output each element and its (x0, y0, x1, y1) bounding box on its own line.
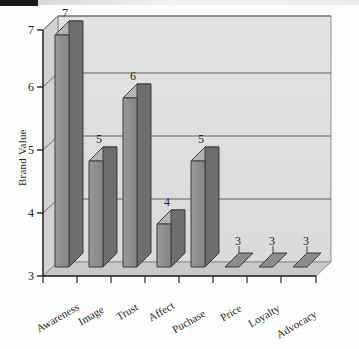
value-label-awareness: 7 (62, 6, 68, 21)
y-tick-label-3: 3 (18, 269, 34, 284)
bar-puchase[interactable] (191, 147, 219, 267)
value-label-advocacy: 3 (303, 234, 309, 249)
value-label-price: 3 (235, 234, 241, 249)
y-tick-label-5: 5 (18, 143, 34, 158)
value-label-loyalty: 3 (269, 234, 275, 249)
chart-canvas: Brand Value 3 4 5 6 7 7 5 6 4 5 3 3 3 Aw… (0, 0, 359, 349)
bar-awareness[interactable] (55, 21, 83, 267)
value-label-trust: 6 (130, 69, 136, 84)
x-axis (43, 276, 316, 283)
y-tick-label-7: 7 (18, 23, 34, 38)
value-label-image: 5 (96, 132, 102, 147)
bar-image[interactable] (89, 147, 117, 267)
plot-floor (43, 262, 331, 276)
y-tick-label-4: 4 (18, 206, 34, 221)
value-label-puchase: 5 (198, 132, 204, 147)
y-axis (37, 30, 43, 276)
value-label-affect: 4 (164, 195, 170, 210)
bar-chart-graphic (0, 0, 359, 349)
y-tick-label-6: 6 (18, 80, 34, 95)
bar-trust[interactable] (123, 84, 151, 267)
